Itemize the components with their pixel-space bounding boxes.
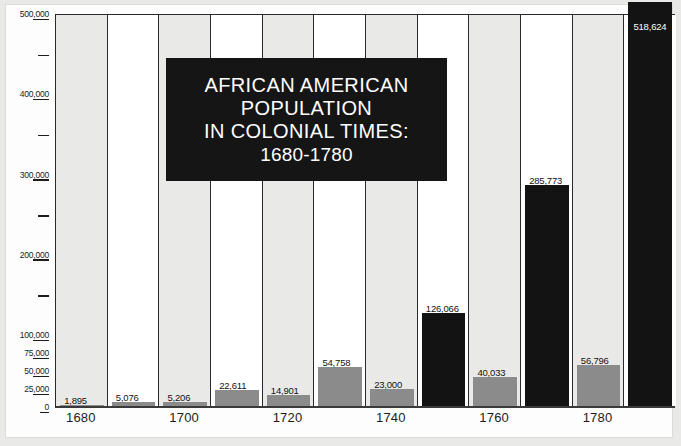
bar	[628, 2, 671, 406]
y-tick-50000: 50,000	[24, 367, 49, 377]
x-tick-1740: 1740	[376, 410, 406, 425]
bar-value-label: 1,895	[62, 395, 89, 406]
bar	[577, 365, 620, 406]
bar-base	[318, 367, 361, 406]
bar-base	[473, 377, 516, 406]
x-tick-1780: 1780	[583, 410, 613, 425]
bar-value-label: 518,624	[631, 21, 668, 32]
chart-title-plaque: AFRICAN AMERICAN POPULATION IN COLONIAL …	[166, 58, 447, 181]
bar	[267, 395, 310, 406]
bar-base	[215, 390, 258, 406]
bar	[215, 390, 258, 406]
y-tick-500000: 500,000	[20, 10, 49, 20]
bar-value-label: 23,000	[372, 379, 404, 390]
y-tick-0: 0	[40, 403, 49, 413]
bar-base	[370, 389, 413, 406]
bar-base	[577, 365, 620, 406]
title-line-4: 1680-1780	[260, 143, 353, 166]
bar-value-label: 285,773	[527, 175, 564, 186]
bar-base	[267, 395, 310, 406]
title-line-3: IN COLONIAL TIMES:	[204, 120, 409, 143]
x-tick-1760: 1760	[479, 410, 509, 425]
bar-value-label: 54,758	[320, 357, 352, 368]
chart-figure: 500,000400,000300,000200,000100,00075,00…	[0, 0, 681, 446]
bar	[473, 377, 516, 406]
title-line-2: POPULATION	[241, 97, 372, 120]
bar	[422, 313, 465, 406]
bar-value-label: 5,076	[114, 392, 141, 403]
column-band	[56, 15, 108, 406]
column-band	[469, 15, 521, 406]
bar-value-label: 5,206	[165, 392, 192, 403]
plot-area: 1,8955,0765,20622,61114,90154,75823,0001…	[55, 14, 675, 408]
y-tick-400000: 400,000	[20, 90, 49, 100]
x-tick-1700: 1700	[169, 410, 199, 425]
bar-value-label: 22,611	[217, 380, 248, 391]
y-tick-200000: 200,000	[20, 251, 49, 261]
column-band	[108, 15, 160, 406]
bar	[525, 185, 568, 406]
bar-value-label: 56,796	[579, 355, 611, 366]
y-axis: 500,000400,000300,000200,000100,00075,00…	[5, 4, 53, 416]
y-tick-minor	[38, 295, 49, 297]
y-tick-100000: 100,000	[20, 331, 49, 341]
bar	[370, 389, 413, 406]
y-tick-minor	[38, 54, 49, 56]
bar-value-label: 126,066	[424, 303, 461, 314]
title-line-1: AFRICAN AMERICAN	[204, 74, 408, 97]
x-axis: 168017001720174017601780	[55, 410, 675, 436]
y-tick-minor	[38, 215, 49, 217]
bar-value-label: 14,901	[269, 385, 301, 396]
bar	[318, 367, 361, 406]
chart-frame: 500,000400,000300,000200,000100,00075,00…	[5, 4, 673, 438]
x-tick-1720: 1720	[273, 410, 303, 425]
y-tick-75000: 75,000	[24, 349, 49, 359]
y-tick-25000: 25,000	[24, 385, 49, 395]
x-tick-1680: 1680	[66, 410, 96, 425]
y-tick-minor	[38, 134, 49, 136]
bar-value-label: 40,033	[475, 367, 507, 378]
column-band	[573, 15, 625, 406]
y-tick-300000: 300,000	[20, 171, 49, 181]
